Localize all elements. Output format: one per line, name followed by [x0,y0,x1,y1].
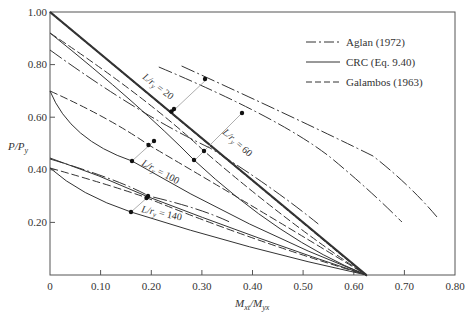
marker [129,210,133,214]
interaction-curve-chart: 0.20 0.40 0.60 0.80 1.00 0 0.10 0.20 0.3… [0,0,472,314]
x-tick-label: 0.60 [344,280,364,292]
marker [152,139,156,143]
marker [192,158,196,162]
marker [203,77,207,81]
legend: Aglan (1972) CRC (Eq. 9.40) Galambos (19… [306,36,423,89]
y-tick-label: 1.00 [28,6,48,18]
annotation-lry-20: L/ry = 20 [139,70,176,103]
marker [146,143,150,147]
y-axis-title: P/Py [7,140,29,155]
legend-label-galambos: Galambos (1963) [346,76,423,89]
marker [202,149,206,153]
y-tick-label: 0.20 [28,216,48,228]
marker [146,194,150,198]
marker [240,111,244,115]
marker [130,159,134,163]
y-tick-label: 0.40 [28,163,48,175]
annotation-lry-60: L/ry = 60 [219,126,255,160]
legend-label-crc: CRC (Eq. 9.40) [346,56,415,69]
x-tick-label: 0.20 [142,280,162,292]
galambos-curve-60 [50,33,366,275]
aglan-curve-20-upper [182,66,437,217]
galambos-curve-100 [50,91,366,275]
marker [172,107,176,111]
x-tick-label: 0.70 [395,280,415,292]
legend-label-aglan: Aglan (1972) [346,36,405,49]
x-tick-label: 0.50 [293,280,313,292]
crc-curve-140-upper [50,158,366,275]
x-tick-label: 0.10 [91,280,111,292]
x-tick-label: 0.80 [445,280,465,292]
x-tick-label: 0.30 [192,280,212,292]
x-tick-label: 0.40 [243,280,263,292]
annotation-lry-100: L/ry = 100 [138,157,181,188]
y-axis [50,65,55,223]
aglan-curve-100 [50,50,318,224]
x-axis-title: Mxt/Myx [234,297,270,312]
crc-curve-100 [50,91,366,275]
y-tick-label: 0.60 [28,111,48,123]
x-tick-label: 0 [47,280,53,292]
y-tick-label: 0.80 [28,58,48,70]
